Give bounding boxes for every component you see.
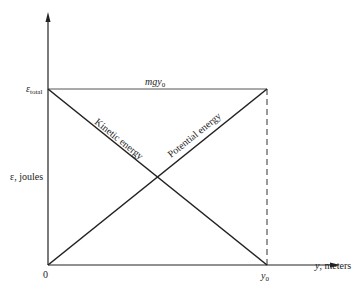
x-axis-label: y, meters [314,260,351,271]
potential-energy-label: Potential energy [165,110,223,159]
energy-diagram: εtotal ε, joules 0 y0 y, meters mgy0 Kin… [0,0,360,290]
origin-label: 0 [43,269,48,280]
y0-label: y0 [260,270,269,283]
y-axis-label: ε, joules [10,171,43,182]
mgy0-label: mgy0 [145,76,166,89]
kinetic-energy-label: Kinetic energy [93,116,146,162]
etotal-label: εtotal [26,83,42,96]
y-axis-arrow-icon [46,12,51,22]
